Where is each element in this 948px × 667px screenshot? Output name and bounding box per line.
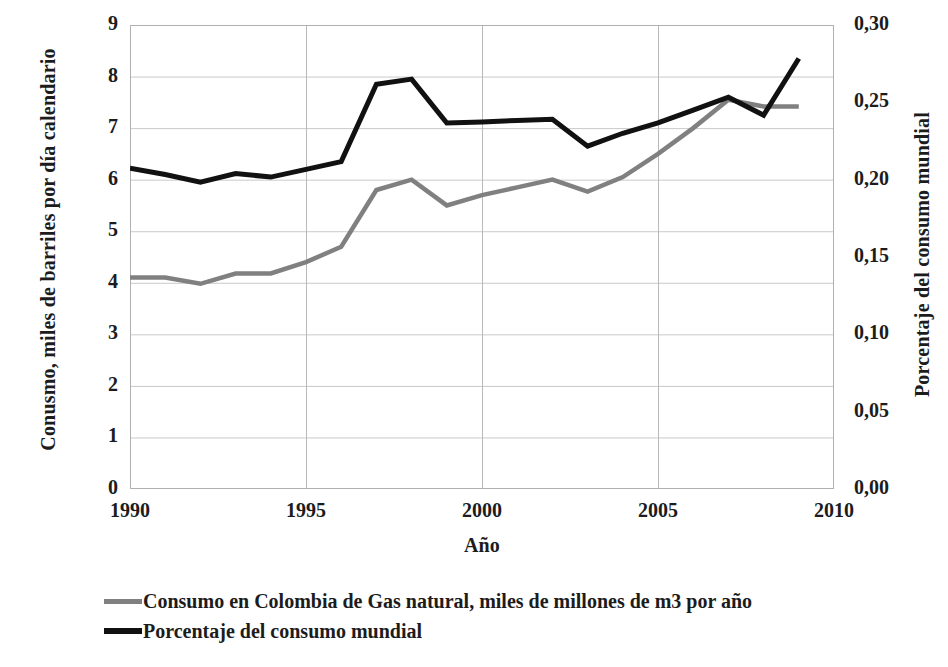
legend-swatch-icon (104, 599, 142, 604)
y-axis-left-tick-label: 6 (72, 167, 118, 190)
y-axis-right-tick-label: 0,05 (854, 399, 924, 422)
data-series-group (130, 59, 799, 284)
x-axis-tick-label: 1990 (90, 499, 170, 522)
y-axis-left-tick-label: 2 (72, 373, 118, 396)
y-axis-left-tick-label: 1 (72, 424, 118, 447)
y-axis-right-tick-label: 0,25 (854, 89, 924, 112)
legend-label: Consumo en Colombia de Gas natural, mile… (142, 590, 752, 613)
series-line (130, 100, 799, 284)
legend-swatch-icon (104, 628, 142, 634)
y-axis-left-tick-label: 5 (72, 218, 118, 241)
y-axis-left-tick-label: 9 (72, 12, 118, 35)
chart-legend: Consumo en Colombia de Gas natural, mile… (104, 586, 904, 646)
y-axis-right-tick-label: 0,30 (854, 12, 924, 35)
y-axis-right-tick-label: 0,20 (854, 167, 924, 190)
y-axis-left-title: Conusmo, miles de barriles por día calen… (37, 10, 60, 490)
line-chart: Conusmo, miles de barriles por día calen… (0, 0, 948, 667)
x-axis-tick-label: 2005 (618, 499, 698, 522)
x-axis-tick-label: 1995 (266, 499, 346, 522)
legend-item: Consumo en Colombia de Gas natural, mile… (104, 586, 904, 616)
y-axis-right-tick-label: 0,10 (854, 321, 924, 344)
y-axis-left-tick-label: 0 (72, 476, 118, 499)
plot-svg (130, 25, 834, 489)
x-axis-tick-label: 2000 (442, 499, 522, 522)
plot-area (130, 25, 834, 489)
y-axis-left-tick-label: 3 (72, 321, 118, 344)
legend-item: Porcentaje del consumo mundial (104, 616, 904, 646)
x-axis-tick-label: 2010 (794, 499, 874, 522)
y-axis-left-tick-label: 8 (72, 64, 118, 87)
legend-label: Porcentaje del consumo mundial (142, 620, 422, 643)
y-axis-left-tick-label: 7 (72, 115, 118, 138)
x-axis-title: Año (130, 534, 834, 557)
y-axis-right-tick-label: 0,00 (854, 476, 924, 499)
y-axis-right-tick-label: 0,15 (854, 244, 924, 267)
y-axis-left-tick-label: 4 (72, 270, 118, 293)
